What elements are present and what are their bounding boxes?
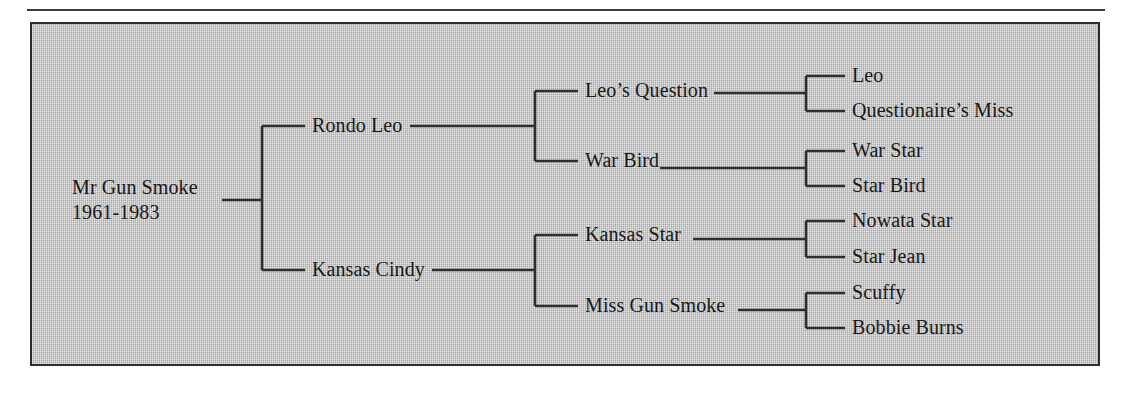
node-label: Leo’s Question: [585, 79, 708, 101]
node-war-bird: War Bird: [585, 149, 659, 171]
node-leos-question: Leo’s Question: [585, 79, 708, 101]
top-horizontal-rule: [27, 9, 1105, 11]
node-star-bird: Star Bird: [852, 174, 926, 196]
node-label: War Star: [852, 139, 923, 161]
node-root-name: Mr Gun Smoke: [72, 176, 198, 198]
node-label: Star Jean: [852, 245, 926, 267]
node-kansas-cindy: Kansas Cindy: [312, 258, 425, 280]
node-label: Kansas Cindy: [312, 258, 425, 280]
node-root-years: 1961-1983: [72, 200, 198, 225]
node-label: Questionaire’s Miss: [852, 99, 1013, 121]
pedigree-figure: Mr Gun Smoke 1961-1983 Rondo Leo Kansas …: [0, 0, 1121, 395]
node-questionaires-miss: Questionaire’s Miss: [852, 99, 1013, 121]
node-label: Miss Gun Smoke: [585, 294, 725, 316]
node-label: Star Bird: [852, 174, 926, 196]
node-scuffy: Scuffy: [852, 281, 906, 303]
node-leo: Leo: [852, 64, 883, 86]
node-war-star: War Star: [852, 139, 923, 161]
node-label: Scuffy: [852, 281, 906, 303]
node-rondo-leo: Rondo Leo: [312, 114, 402, 136]
node-bobbie-burns: Bobbie Burns: [852, 316, 964, 338]
node-label: Leo: [852, 64, 883, 86]
node-root: Mr Gun Smoke 1961-1983: [72, 175, 198, 225]
node-nowata-star: Nowata Star: [852, 209, 953, 231]
node-label: Bobbie Burns: [852, 316, 964, 338]
node-label: Kansas Star: [585, 223, 681, 245]
node-star-jean: Star Jean: [852, 245, 926, 267]
node-miss-gun-smoke: Miss Gun Smoke: [585, 294, 725, 316]
node-label: War Bird: [585, 149, 659, 171]
node-label: Nowata Star: [852, 209, 953, 231]
node-kansas-star: Kansas Star: [585, 223, 681, 245]
node-label: Rondo Leo: [312, 114, 402, 136]
